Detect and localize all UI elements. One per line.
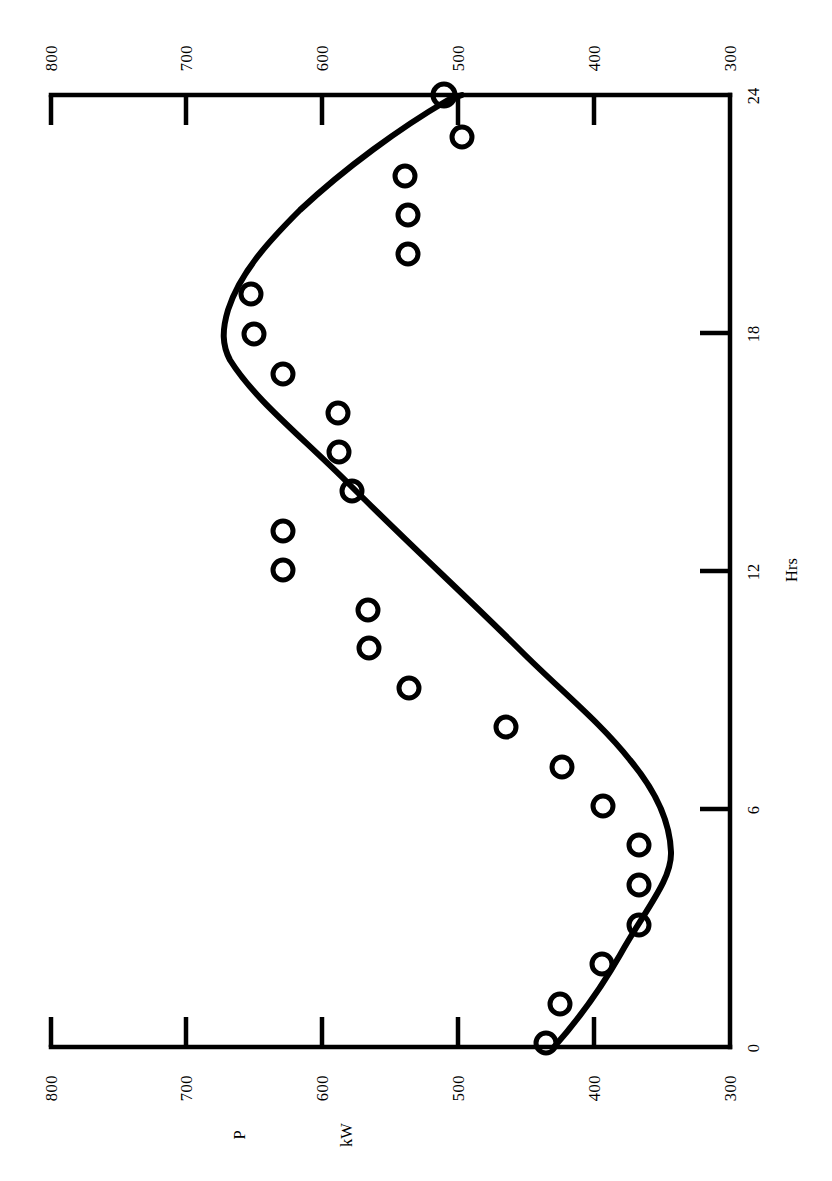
data-point	[550, 994, 570, 1014]
kw-tick-label-500-bottom: 500	[449, 1073, 469, 1103]
kw-tick-label-400-bottom: 400	[585, 1073, 605, 1103]
data-point	[592, 954, 612, 974]
kw-tick-label-700-top: 700	[177, 43, 197, 73]
figure-canvas: 800 700 600 500 400 300 800 700 600 500 …	[0, 0, 832, 1181]
data-point	[273, 560, 293, 580]
data-point	[395, 166, 415, 186]
data-point	[328, 403, 348, 423]
hrs-tick-label-0: 0	[744, 1036, 764, 1060]
kw-axis-title-symbol: P	[230, 1120, 250, 1150]
data-point	[629, 875, 649, 895]
kw-tick-label-500-top: 500	[449, 43, 469, 73]
data-points	[241, 84, 649, 1053]
data-point	[273, 521, 293, 541]
data-point	[399, 678, 419, 698]
data-point	[358, 600, 378, 620]
data-point	[241, 284, 261, 304]
data-point	[359, 638, 379, 658]
data-point	[536, 1033, 556, 1053]
kw-axis-title-unit: kW	[337, 1118, 357, 1152]
data-point	[398, 205, 418, 225]
kw-tick-label-300-bottom: 300	[721, 1073, 741, 1103]
kw-ticks-bottom	[51, 1017, 594, 1047]
kw-tick-label-300-top: 300	[721, 43, 741, 73]
kw-tick-label-700-bottom: 700	[177, 1073, 197, 1103]
kw-tick-label-600-bottom: 600	[313, 1073, 333, 1103]
data-point	[552, 757, 572, 777]
data-point	[452, 127, 472, 147]
kw-tick-label-800-top: 800	[42, 43, 62, 73]
kw-tick-label-800-bottom: 800	[42, 1073, 62, 1103]
hrs-tick-label-24: 24	[744, 84, 764, 108]
hrs-tick-label-6: 6	[744, 798, 764, 822]
hrs-tick-label-18: 18	[744, 322, 764, 346]
hrs-axis-title: Hrs	[782, 550, 802, 590]
data-point	[593, 796, 613, 816]
data-point	[329, 442, 349, 462]
data-point	[629, 835, 649, 855]
hrs-ticks	[700, 333, 730, 809]
data-point	[398, 244, 418, 264]
chart-plot-svg	[0, 0, 832, 1181]
kw-tick-label-600-top: 600	[313, 43, 333, 73]
axis-lines	[51, 95, 730, 1047]
kw-ticks-top	[51, 95, 594, 125]
kw-tick-label-400-top: 400	[585, 43, 605, 73]
data-point	[496, 717, 516, 737]
hrs-tick-label-12: 12	[744, 560, 764, 584]
data-point	[273, 364, 293, 384]
data-point	[244, 324, 264, 344]
